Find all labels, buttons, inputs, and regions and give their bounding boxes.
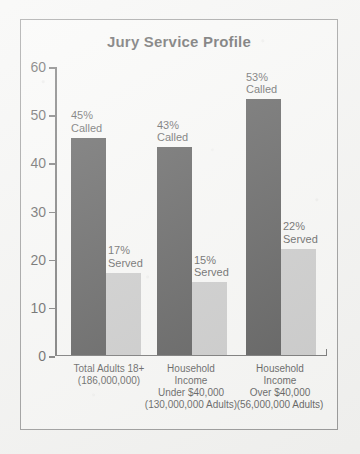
bar-served-income-over-40k (281, 249, 316, 355)
category-line: Household (230, 363, 330, 375)
bar-label-served-total-adults: 17% Served (108, 244, 143, 269)
bar-value-served-income-over-40k: 22% (283, 220, 318, 233)
chart-frame: Jury Service Profile 60 50 40 30 20 10 0… (20, 19, 338, 430)
bar-called-total-adults (71, 138, 106, 355)
bar-series-served-income-over-40k: Served (283, 233, 318, 246)
y-tick-20 (49, 260, 55, 262)
bar-value-called-total-adults: 45% (71, 109, 102, 122)
category-label-income-under-40k: Household Income Under $40,000 (130,000,… (141, 363, 241, 411)
bar-called-income-over-40k (246, 99, 281, 354)
y-tick-30 (49, 212, 55, 214)
y-tick-label-10: 10 (30, 300, 46, 316)
plot-area: 60 50 40 30 20 10 0 45% Called 17% Serve… (55, 67, 327, 356)
y-tick-0 (49, 356, 55, 358)
bar-label-called-total-adults: 45% Called (71, 109, 102, 134)
y-tick-50 (49, 115, 55, 117)
category-line: Income (230, 375, 330, 387)
chart-title: Jury Service Profile (21, 33, 337, 50)
y-tick-40 (49, 163, 55, 165)
bar-value-served-total-adults: 17% (108, 244, 143, 257)
category-label-income-over-40k: Household Income Over $40,000 (56,000,00… (230, 363, 330, 411)
bar-series-served-total-adults: Served (108, 257, 143, 270)
bar-called-income-under-40k (157, 147, 192, 354)
y-tick-label-20: 20 (30, 252, 46, 268)
y-tick-label-0: 0 (38, 348, 46, 364)
bar-label-called-income-over-40k: 53% Called (246, 71, 277, 96)
category-line: (130,000,000 Adults) (141, 399, 241, 411)
bar-label-called-income-under-40k: 43% Called (157, 119, 188, 144)
category-line: Over $40,000 (230, 387, 330, 399)
bar-served-income-under-40k (192, 282, 227, 354)
y-axis-line (55, 67, 57, 356)
bar-series-called-income-over-40k: Called (246, 83, 277, 96)
bar-value-served-income-under-40k: 15% (194, 254, 229, 267)
y-tick-label-40: 40 (30, 155, 46, 171)
y-tick-label-50: 50 (30, 107, 46, 123)
bar-label-served-income-over-40k: 22% Served (283, 220, 318, 245)
x-axis-line (55, 355, 327, 357)
bar-series-served-income-under-40k: Served (194, 266, 229, 279)
bar-series-called-total-adults: Called (71, 122, 102, 135)
bar-value-called-income-over-40k: 53% (246, 71, 277, 84)
category-line: Under $40,000 (141, 387, 241, 399)
category-line: Income (141, 375, 241, 387)
bar-value-called-income-under-40k: 43% (157, 119, 188, 132)
y-tick-10 (49, 308, 55, 310)
bar-served-total-adults (106, 273, 141, 355)
bar-series-called-income-under-40k: Called (157, 131, 188, 144)
category-line: Household (141, 363, 241, 375)
y-tick-label-60: 60 (30, 59, 46, 75)
category-line: (56,000,000 Adults) (230, 399, 330, 411)
y-tick-label-30: 30 (30, 204, 46, 220)
x-axis-end-cap (326, 349, 328, 356)
bar-label-served-income-under-40k: 15% Served (194, 254, 229, 279)
y-tick-60 (49, 67, 55, 69)
